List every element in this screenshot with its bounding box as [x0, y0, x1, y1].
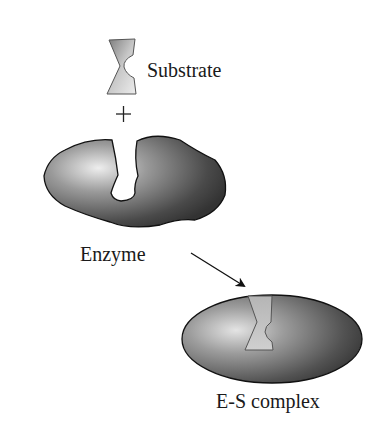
es-complex-shape — [182, 295, 362, 383]
substrate-label: Substrate — [147, 59, 221, 82]
substrate-shape — [107, 39, 136, 94]
reaction-arrow — [191, 253, 244, 286]
enzyme-shape — [44, 136, 226, 227]
enzyme-label: Enzyme — [80, 243, 146, 266]
es-complex-label: E-S complex — [216, 390, 320, 413]
plus-sign — [116, 106, 131, 122]
